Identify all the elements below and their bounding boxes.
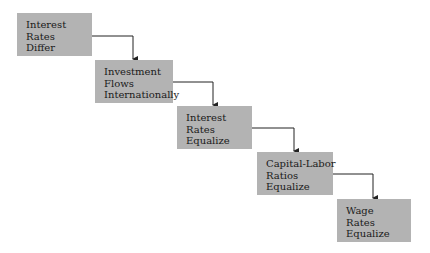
step-2-line-2: Flows <box>104 78 173 90</box>
step-capital-labor-ratios: Capital-Labor Ratios Equalize <box>257 152 333 195</box>
step-5-line-3: Equalize <box>346 228 411 240</box>
step-4-line-3: Equalize <box>266 181 333 193</box>
step-3-line-1: Interest <box>186 112 252 124</box>
step-investment-flows: Investment Flows Internationally <box>95 60 173 103</box>
step-1-line-1: Interest <box>26 19 92 31</box>
step-interest-rates-differ: Interest Rates Differ <box>17 13 92 56</box>
step-5-line-1: Wage <box>346 205 411 217</box>
step-3-line-2: Rates <box>186 124 252 136</box>
step-3-line-3: Equalize <box>186 135 252 147</box>
arrow-1-to-2 <box>92 36 133 59</box>
step-2-line-3: Internationally <box>104 89 173 101</box>
step-interest-rates-equalize: Interest Rates Equalize <box>177 106 252 149</box>
step-1-line-2: Rates <box>26 31 92 43</box>
step-1-line-3: Differ <box>26 42 92 54</box>
step-wage-rates-equalize: Wage Rates Equalize <box>337 199 411 242</box>
arrow-2-to-3 <box>173 82 213 105</box>
step-4-line-1: Capital-Labor <box>266 158 333 170</box>
arrow-3-to-4 <box>252 128 294 151</box>
step-5-line-2: Rates <box>346 217 411 229</box>
step-2-line-1: Investment <box>104 66 173 78</box>
step-4-line-2: Ratios <box>266 170 333 182</box>
arrow-4-to-5 <box>333 174 373 198</box>
